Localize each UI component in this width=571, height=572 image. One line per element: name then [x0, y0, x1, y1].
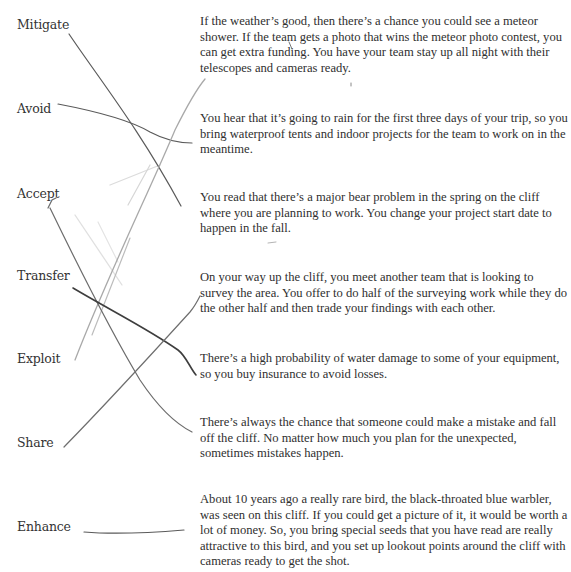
- pencil-mark: [268, 242, 276, 243]
- erased-stroke: [128, 165, 150, 205]
- match-line-share: [64, 296, 200, 447]
- scenario-1: If the weather’s good, then there’s a ch…: [200, 14, 568, 76]
- scenario-3: You read that there’s a major bear probl…: [200, 190, 568, 237]
- scenario-2: You hear that it’s going to rain for the…: [200, 111, 568, 158]
- term-share: Share: [17, 435, 53, 450]
- match-line-exploit: [75, 79, 205, 360]
- match-line-enhance: [84, 530, 184, 533]
- erased-stroke: [75, 215, 122, 285]
- erased-stroke: [110, 165, 160, 185]
- scenario-6: There’s always the chance that someone c…: [200, 415, 568, 462]
- term-transfer: Transfer: [17, 268, 70, 283]
- match-line-avoid: [58, 104, 192, 143]
- match-line-accept: [50, 208, 192, 432]
- term-enhance: Enhance: [17, 519, 71, 534]
- match-line-transfer: [73, 288, 196, 375]
- scenario-7: About 10 years ago a really rare bird, t…: [200, 492, 568, 570]
- erased-stroke: [98, 222, 118, 262]
- scenario-5: There’s a high probability of water dama…: [200, 351, 568, 382]
- term-exploit: Exploit: [17, 351, 60, 366]
- match-line-mitigate: [69, 34, 181, 206]
- term-mitigate: Mitigate: [17, 17, 69, 32]
- term-accept: Accept: [17, 186, 59, 201]
- scenario-4: On your way up the cliff, you meet anoth…: [200, 270, 568, 317]
- match-line-exploit-extra: [92, 238, 130, 335]
- term-avoid: Avoid: [17, 101, 51, 116]
